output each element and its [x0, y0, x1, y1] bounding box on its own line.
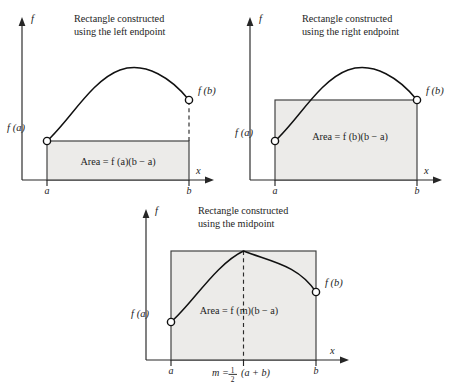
function-curve	[47, 68, 189, 141]
panel-title-line2: using the midpoint	[198, 218, 275, 229]
marker-fa	[167, 318, 174, 325]
panel-title-line1: Rectangle constructed	[302, 13, 392, 24]
midpoint-formula-numerator: 1	[231, 366, 235, 375]
area-formula: Area = f (m)(b − a)	[200, 305, 279, 317]
x-axis-label: x	[423, 165, 429, 176]
area-formula: Area = f (b)(b − a)	[312, 131, 388, 143]
panel-title-line1: Rectangle constructed	[198, 205, 288, 216]
tick-label-b: b	[415, 185, 420, 196]
panel-title-line1: Rectangle constructed	[74, 13, 164, 24]
y-axis-label: f	[259, 13, 264, 24]
label-fa: f (a)	[7, 122, 25, 134]
tick-label-a: a	[45, 185, 50, 196]
midpoint-formula-denominator: 2	[231, 375, 235, 384]
label-fa: f (a)	[131, 308, 149, 320]
x-axis-arrowhead	[433, 177, 442, 184]
panel-right-endpoint: f x f (a) f (b) a b Area = f (b)(b − a) …	[228, 0, 460, 196]
midpoint-formula-lhs: m =	[212, 367, 229, 378]
marker-fb	[413, 96, 420, 103]
y-axis-arrowhead	[143, 209, 150, 218]
y-axis-label: f	[31, 13, 36, 24]
label-fb: f (b)	[325, 277, 343, 289]
midpoint-formula: m = 1 2 (a + b)	[212, 366, 271, 384]
marker-fa	[271, 137, 278, 144]
area-formula: Area = f (a)(b − a)	[80, 156, 155, 168]
riemann-rectangles-figure: f x f (a) f (b) a b Area = f (a)(b − a) …	[0, 0, 460, 387]
marker-fa	[43, 137, 50, 144]
panel-title-line2: using the left endpoint	[74, 26, 166, 37]
x-axis-label: x	[329, 345, 335, 356]
marker-fb	[312, 288, 319, 295]
panel-title-line2: using the right endpoint	[302, 26, 399, 37]
label-fb: f (b)	[426, 85, 444, 97]
marker-fb	[185, 96, 192, 103]
tick-label-b: b	[314, 365, 319, 376]
panel-left-endpoint: f x f (a) f (b) a b Area = f (a)(b − a) …	[0, 0, 232, 196]
panel-midpoint: f x f (a) f (b) a b Area = f (m)(b − a) …	[114, 192, 366, 387]
tick-label-a: a	[169, 365, 174, 376]
y-axis-arrowhead	[247, 17, 254, 26]
label-fa: f (a)	[235, 127, 253, 139]
y-axis-arrowhead	[19, 17, 26, 26]
midpoint-formula-rhs: (a + b)	[241, 367, 271, 379]
x-axis-label: x	[195, 165, 201, 176]
x-axis-arrowhead	[340, 357, 349, 364]
label-fb: f (b)	[198, 85, 216, 97]
x-axis-arrowhead	[205, 177, 214, 184]
y-axis-label: f	[155, 205, 160, 216]
